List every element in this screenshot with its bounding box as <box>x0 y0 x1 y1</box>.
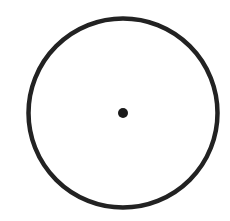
center-point <box>118 108 128 118</box>
diagram-canvas <box>0 0 230 221</box>
